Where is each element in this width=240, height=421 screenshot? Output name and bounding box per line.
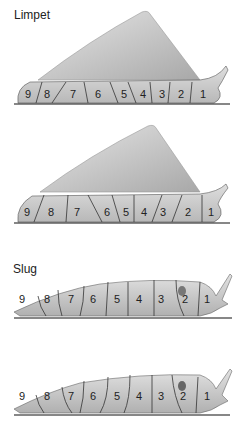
svg-text:6: 6	[104, 206, 110, 218]
svg-text:7: 7	[68, 390, 74, 402]
svg-text:3: 3	[158, 390, 164, 402]
svg-text:6: 6	[90, 293, 96, 305]
svg-text:7: 7	[74, 206, 80, 218]
svg-text:1: 1	[204, 390, 210, 402]
svg-text:3: 3	[159, 88, 165, 100]
svg-text:8: 8	[48, 206, 54, 218]
svg-text:7: 7	[70, 88, 76, 100]
svg-text:4: 4	[140, 88, 146, 100]
svg-text:9: 9	[25, 88, 31, 100]
svg-text:7: 7	[68, 293, 74, 305]
svg-text:2: 2	[180, 390, 186, 402]
slug-diagram-1: 98 76 54 32 1	[0, 230, 240, 325]
svg-text:3: 3	[158, 293, 164, 305]
limpet-diagram-1: 98 76 54 32 1	[0, 0, 240, 110]
svg-text:5: 5	[121, 88, 127, 100]
svg-text:8: 8	[44, 88, 50, 100]
svg-text:8: 8	[44, 293, 50, 305]
limpet-diagram-2: 98 76 54 32 1	[0, 110, 240, 230]
svg-text:6: 6	[90, 390, 96, 402]
svg-text:8: 8	[44, 390, 50, 402]
svg-text:2: 2	[185, 206, 191, 218]
svg-text:1: 1	[208, 206, 214, 218]
svg-text:1: 1	[204, 293, 210, 305]
svg-text:3: 3	[160, 206, 166, 218]
svg-text:5: 5	[114, 293, 120, 305]
svg-text:9: 9	[24, 206, 30, 218]
svg-text:5: 5	[123, 206, 129, 218]
svg-text:1: 1	[200, 88, 206, 100]
svg-text:6: 6	[95, 88, 101, 100]
svg-text:2: 2	[178, 88, 184, 100]
slug-diagram-2: 98 76 54 32 1	[0, 325, 240, 421]
svg-text:9: 9	[19, 390, 25, 402]
svg-text:4: 4	[136, 293, 142, 305]
svg-text:4: 4	[141, 206, 147, 218]
svg-text:5: 5	[114, 390, 120, 402]
svg-text:2: 2	[182, 293, 188, 305]
svg-text:4: 4	[136, 390, 142, 402]
svg-text:9: 9	[19, 293, 25, 305]
